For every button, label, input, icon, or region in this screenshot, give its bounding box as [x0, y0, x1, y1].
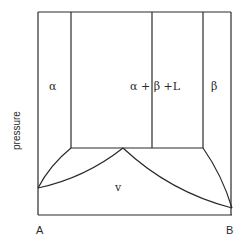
axis-label-b: B	[226, 225, 233, 236]
beta-vapor-curve	[203, 148, 232, 208]
right-liquid-vapor-curve	[123, 148, 232, 208]
region-label-alpha-beta-liquid: α + β +L	[130, 81, 180, 92]
alpha-vapor-curve	[38, 148, 71, 188]
region-label-beta: β	[211, 81, 217, 92]
axis-title-pressure: pressure	[12, 111, 22, 150]
phase-diagram	[0, 0, 247, 242]
region-label-alpha: α	[49, 81, 56, 92]
region-label-vapor: v	[115, 182, 121, 193]
axis-label-a: A	[36, 225, 43, 236]
